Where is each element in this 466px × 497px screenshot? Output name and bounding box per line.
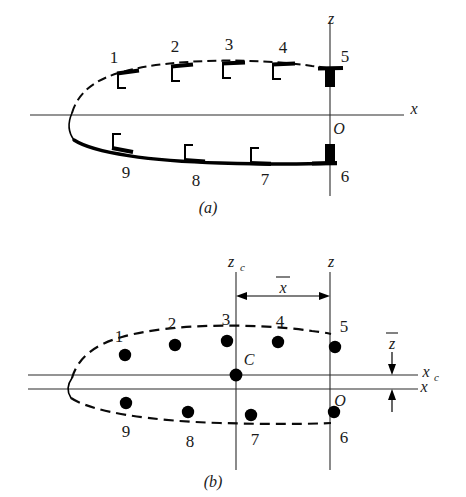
panel-b-node-label-1: 1: [115, 327, 124, 346]
panel-b-caption: (b): [204, 473, 223, 491]
panel-b-centroid-dot: [230, 369, 243, 382]
panel-b-node-label-2: 2: [168, 314, 177, 333]
panel-b: 1 2 3 4 5 6 7 8 9 z c z x c x O C x: [28, 253, 439, 491]
panel-a-node-label-6: 6: [341, 167, 350, 186]
panel-b-node-label-8: 8: [186, 432, 195, 451]
panel-b-zc-axis-label-main: z: [227, 253, 235, 270]
panel-b-xbar-dimension: x: [236, 277, 330, 300]
panel-b-node-label-4: 4: [276, 312, 285, 331]
xbar-arrow-right: [319, 292, 330, 300]
panel-b-zc-axis-label-sub: c: [240, 261, 245, 273]
panel-b-node-label-3: 3: [222, 310, 231, 329]
panel-b-node-dot-8: [182, 406, 194, 418]
panel-b-node-dot-1: [119, 349, 131, 361]
panel-a-node-label-3: 3: [225, 35, 234, 54]
figure-root: 1 2 3 4 5 6 7 8 9 z x O (a): [0, 0, 466, 497]
panel-b-node-dot-4: [272, 336, 284, 348]
panel-b-leading-edge: [68, 378, 72, 398]
panel-a-node-label-9: 9: [122, 163, 131, 182]
panel-a-node-label-4: 4: [279, 38, 288, 57]
panel-a-marker-8: [184, 144, 205, 162]
panel-a-node-label-5: 5: [341, 47, 350, 66]
panel-b-upper-surface: [72, 326, 331, 378]
panel-a-upper-surface: [72, 61, 331, 113]
panel-a-node-label-8: 8: [192, 171, 201, 190]
panel-b-node-dot-2: [169, 339, 181, 351]
panel-a-x-axis-label: x: [409, 100, 417, 117]
panel-a: 1 2 3 4 5 6 7 8 9 z x O (a): [30, 10, 418, 217]
panel-b-xbar-label: x: [278, 279, 286, 296]
panel-b-zbar-label: z: [388, 335, 396, 352]
panel-b-node-label-7: 7: [251, 430, 260, 449]
panel-b-x-axis-label: x: [419, 378, 427, 395]
panel-a-marker-9: [112, 133, 133, 152]
panel-b-xc-axis-label-sub: c: [434, 371, 439, 383]
panel-a-marker-5: [318, 68, 343, 87]
panel-a-marker-2: [171, 65, 193, 83]
panel-a-caption: (a): [199, 199, 218, 217]
panel-b-node-label-6: 6: [340, 428, 349, 447]
panel-b-centroid-label: C: [244, 351, 255, 368]
panel-a-marker-3: [222, 63, 245, 80]
panel-b-lower-surface: [71, 398, 331, 424]
panel-a-node-label-1: 1: [110, 48, 119, 67]
panel-b-z-axis-label: z: [327, 253, 335, 270]
panel-a-marker-6: [312, 144, 337, 164]
panel-b-node-dot-5: [329, 341, 341, 353]
panel-b-zbar-dimension: z: [386, 333, 398, 412]
panel-b-node-dot-3: [221, 335, 233, 347]
panel-b-node-label-5: 5: [340, 317, 349, 336]
panel-a-leading-edge: [69, 113, 74, 140]
panel-a-node-label-2: 2: [171, 37, 180, 56]
figure-canvas: 1 2 3 4 5 6 7 8 9 z x O (a): [0, 0, 466, 497]
panel-b-node-label-9: 9: [122, 422, 131, 441]
panel-b-node-dot-7: [245, 409, 257, 421]
panel-a-origin-label: O: [333, 120, 345, 137]
panel-b-origin-label: O: [334, 392, 346, 409]
panel-a-marker-4: [272, 64, 295, 81]
xbar-arrow-left: [236, 292, 247, 300]
zbar-arrow-down: [388, 364, 396, 375]
panel-a-z-axis-label: z: [327, 10, 335, 27]
panel-b-zc-axis-label: z c: [227, 253, 245, 273]
panel-a-marker-7: [250, 147, 271, 164]
panel-a-marker-1: [117, 71, 139, 90]
panel-a-node-label-7: 7: [261, 170, 270, 189]
panel-b-node-dot-9: [120, 397, 132, 409]
zbar-arrow-up: [388, 389, 396, 400]
